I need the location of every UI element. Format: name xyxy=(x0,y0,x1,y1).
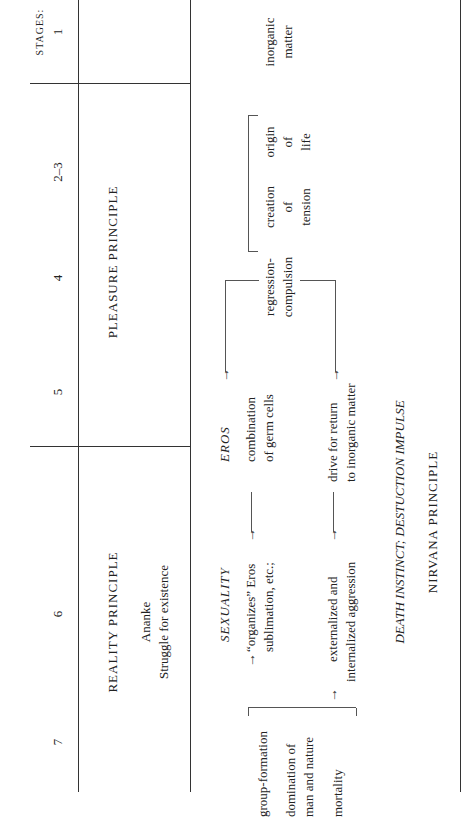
combination-germ-cells-2: of germ cells xyxy=(261,394,277,462)
stages-label: STAGES: xyxy=(32,2,48,62)
death-instinct-label: DEATH INSTINCT; DESTUCTION IMPULSE xyxy=(392,342,408,702)
arrow-line-drive xyxy=(333,492,334,532)
combination-germ-cells-1: combination xyxy=(243,397,259,462)
stage-number-7-label: 7 xyxy=(50,712,66,772)
rule-reality-divider xyxy=(30,446,78,447)
outcomes-bracket xyxy=(248,707,356,708)
branch-stem-upper xyxy=(225,280,259,281)
branch-stem-lower xyxy=(300,280,336,281)
rule-bottom xyxy=(460,0,461,792)
creation-of-tension-3: tension xyxy=(298,172,314,242)
rule-reality-divider-lower xyxy=(78,446,190,447)
drive-for-return-1: drive for return xyxy=(325,403,341,482)
eros-label: EROS xyxy=(217,426,233,462)
mortality: mortality xyxy=(330,769,346,817)
creation-of-tension-1: creation xyxy=(262,172,278,242)
regression-compulsion-1: regression- xyxy=(262,242,278,332)
bracket-end-left xyxy=(248,251,258,252)
externalized-aggression-2: internalized aggression xyxy=(343,562,359,682)
rule-top xyxy=(78,0,79,792)
bracket-end-right xyxy=(248,115,258,116)
regression-compulsion-2: compulsion xyxy=(280,242,296,332)
origin-of-life-3: life xyxy=(298,112,314,172)
stage-number-2-3: 2–3 xyxy=(50,142,66,202)
outcomes-bracket-top xyxy=(248,708,249,716)
struggle-label: Struggle for existence xyxy=(156,462,172,782)
organizes-eros-2: sublimation, etc.; xyxy=(261,562,277,652)
stage-number-5: 5 xyxy=(50,362,66,422)
domination-1: domination of xyxy=(283,744,299,817)
domination-2: man and nature xyxy=(301,737,317,817)
arrow-to-outcomes-upper: → xyxy=(244,653,258,667)
ananke-label: Ananke xyxy=(138,462,154,782)
arrow-line-combination xyxy=(251,492,252,532)
drive-for-return-2: to inorganic matter xyxy=(343,383,359,482)
arrow-to-organizes: → xyxy=(244,528,258,542)
outcomes-bracket-bottom xyxy=(356,708,357,716)
organizes-eros-1: “organizes” Eros xyxy=(243,564,259,652)
stage-number-4: 4 xyxy=(50,248,66,308)
group-formation: group-formation xyxy=(255,731,271,817)
rule-stage1-divider xyxy=(30,83,190,84)
arrow-to-eros: → xyxy=(218,368,232,382)
sexuality-label: SEXUALITY xyxy=(217,567,233,642)
rule-middle xyxy=(190,0,191,792)
nirvana-principle-label: NIRVANA PRINCIPLE xyxy=(425,342,441,702)
inorganic-matter-line2: matter xyxy=(280,2,296,82)
arrow-to-externalized: → xyxy=(326,528,340,542)
externalized-aggression-1: externalized and xyxy=(325,576,341,662)
stage-number-6: 6 xyxy=(50,584,66,644)
bracket-origin-creation xyxy=(248,116,249,252)
arrow-to-outcomes-lower: → xyxy=(326,688,340,702)
freud-stages-diagram: STAGES: 1 2–3 4 5 6 7 7 PLEASURE PRINCIP… xyxy=(0,0,476,822)
branch-upper xyxy=(225,280,226,372)
inorganic-matter-line1: inorganic xyxy=(262,2,278,82)
branch-lower xyxy=(335,280,336,372)
creation-of-tension-2: of xyxy=(280,172,296,242)
origin-of-life-1: origin xyxy=(262,112,278,172)
stage-number-1: 1 xyxy=(50,2,66,62)
reality-principle: REALITY PRINCIPLE xyxy=(105,462,121,782)
origin-of-life-2: of xyxy=(280,112,296,172)
arrow-to-drive: → xyxy=(328,368,342,382)
pleasure-principle: PLEASURE PRINCIPLE xyxy=(105,112,121,412)
